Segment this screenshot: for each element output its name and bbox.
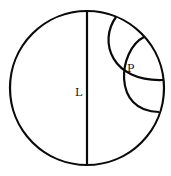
- label-P: P: [127, 62, 135, 75]
- poincare-disk-diagram: L P: [0, 0, 171, 176]
- label-L: L: [75, 86, 83, 99]
- parallel-arc-1: [109, 17, 163, 80]
